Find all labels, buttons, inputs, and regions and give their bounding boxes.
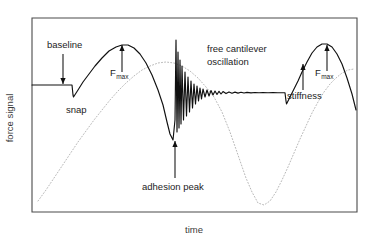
- annotation-fmax-approach: Fmax: [110, 45, 129, 80]
- annotation-layer: baselinesnapFmaxfree cantileveroscillati…: [47, 39, 334, 192]
- force-curve-plot: baselinesnapFmaxfree cantileveroscillati…: [0, 0, 372, 250]
- annotation-arrow-head: [60, 78, 65, 84]
- x-axis-label: time: [185, 224, 203, 235]
- annotation-label-snap: snap: [66, 104, 87, 115]
- annotation-free-cantilever-oscillation-line2: oscillation: [207, 56, 249, 67]
- annotation-subscript-fmax-retract: max: [321, 73, 334, 80]
- annotation-arrow-head: [172, 141, 177, 147]
- annotation-label-adhesion-peak: adhesion peak: [142, 181, 204, 192]
- annotation-subscript-fmax-approach: max: [116, 73, 129, 80]
- annotation-label-stiffness: stiffness: [287, 90, 322, 101]
- annotation-arrow-head: [324, 45, 329, 51]
- annotation-label-baseline: baseline: [47, 39, 82, 50]
- annotation-label-fmax-approach: Fmax: [110, 67, 129, 80]
- annotation-free-cantilever-oscillation: free cantilever: [207, 43, 267, 54]
- annotation-snap: snap: [66, 104, 87, 115]
- annotation-label-free-cantilever-oscillation: free cantilever: [207, 43, 267, 54]
- y-axis-label: force signal: [4, 94, 15, 143]
- annotation-label-fmax-retract: Fmax: [315, 67, 334, 80]
- annotation-baseline: baseline: [47, 39, 82, 84]
- annotation-label-free-cantilever-oscillation-line2: oscillation: [207, 56, 249, 67]
- annotation-fmax-retract: Fmax: [315, 45, 334, 80]
- annotation-adhesion-peak: adhesion peak: [142, 141, 204, 192]
- force-curve-figure: baselinesnapFmaxfree cantileveroscillati…: [0, 0, 372, 250]
